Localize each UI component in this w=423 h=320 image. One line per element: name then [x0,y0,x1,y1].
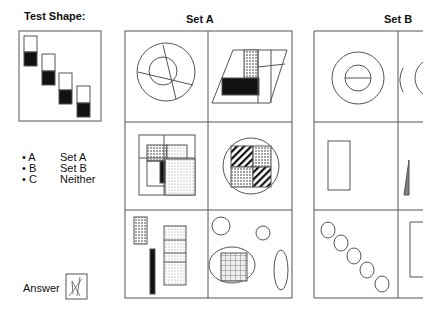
figures-canvas [0,0,423,320]
answer-box[interactable] [66,274,88,300]
